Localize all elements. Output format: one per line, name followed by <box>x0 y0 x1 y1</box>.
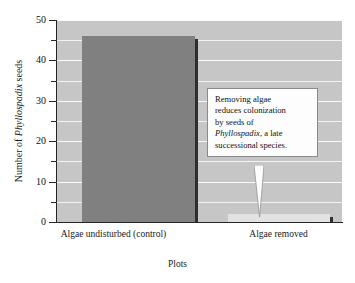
bar-algae-removed <box>228 214 333 222</box>
x-axis-line <box>56 222 343 223</box>
x-tick-label-algae-undisturbed: Algae undisturbed (control) <box>57 228 170 240</box>
y-axis-title: Number of Phyllospadix seeds <box>12 20 26 222</box>
y-tick-label-50: 50 <box>22 15 46 25</box>
y-tick-label-10: 10 <box>22 177 46 187</box>
y-axis-line <box>56 20 57 223</box>
annotation-line-3: by seeds of <box>215 117 311 128</box>
annotation-line-2: reduces colonization <box>215 105 311 116</box>
y-tick-label-30: 30 <box>22 96 46 106</box>
bar-algae-undisturbed-shadow <box>195 39 198 222</box>
gridline-50 <box>57 20 342 21</box>
annotation-line-4: Phyllospadix, a late <box>215 128 311 139</box>
annotation-genus: Phyllospadix <box>215 128 260 138</box>
annotation-line-5: successional species. <box>215 140 311 151</box>
annotation-callout: Removing algae reduces colonization by s… <box>207 88 318 157</box>
y-tick-0 <box>49 222 56 223</box>
annotation-pointer-icon <box>254 165 264 217</box>
y-tick-40 <box>49 60 56 61</box>
y-tick-20 <box>49 141 56 142</box>
bar-algae-removed-body <box>228 214 330 222</box>
y-tick-50 <box>49 20 56 21</box>
annotation-line-1: Removing algae <box>215 94 311 105</box>
x-tick-label-algae-removed: Algae removed <box>222 228 335 240</box>
y-tick-label-0: 0 <box>22 217 46 227</box>
bar-algae-undisturbed <box>82 36 198 222</box>
y-tick-10 <box>49 182 56 183</box>
y-tick-label-40: 40 <box>22 55 46 65</box>
bar-algae-undisturbed-body <box>82 36 195 222</box>
annotation-line-4-rest: , a late <box>260 128 283 138</box>
y-axis-title-genus: Phyllospadix <box>13 84 24 136</box>
y-tick-30 <box>49 101 56 102</box>
bar-chart-figure: Number of Phyllospadix seeds 01020304050… <box>0 0 355 283</box>
y-tick-label-20: 20 <box>22 136 46 146</box>
x-axis-title: Plots <box>0 258 355 270</box>
